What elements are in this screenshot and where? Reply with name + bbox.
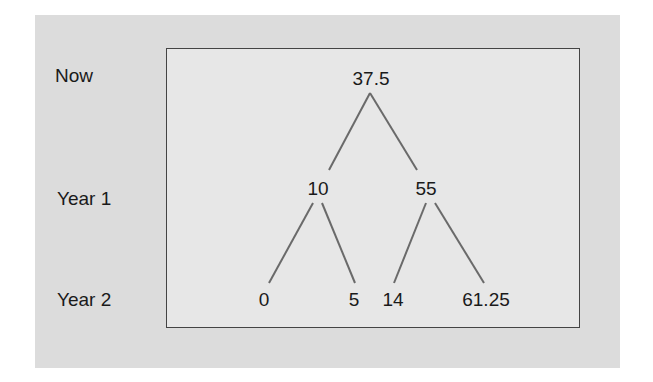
edge-55-to-14 [394,203,426,283]
node-root: 37.5 [353,69,390,89]
node-year2-dd: 0 [259,290,270,310]
edge-10-to-5 [322,203,355,283]
edge-root-to-10 [329,93,370,170]
edge-10-to-0 [269,203,313,283]
edge-55-to-61-25 [435,203,484,283]
node-year1-up: 55 [415,179,436,199]
node-year2-ud: 14 [382,290,403,310]
node-year1-down: 10 [307,179,328,199]
node-year2-uu: 61.25 [462,290,510,310]
edge-root-to-55 [370,93,417,170]
node-year2-du: 5 [349,290,360,310]
